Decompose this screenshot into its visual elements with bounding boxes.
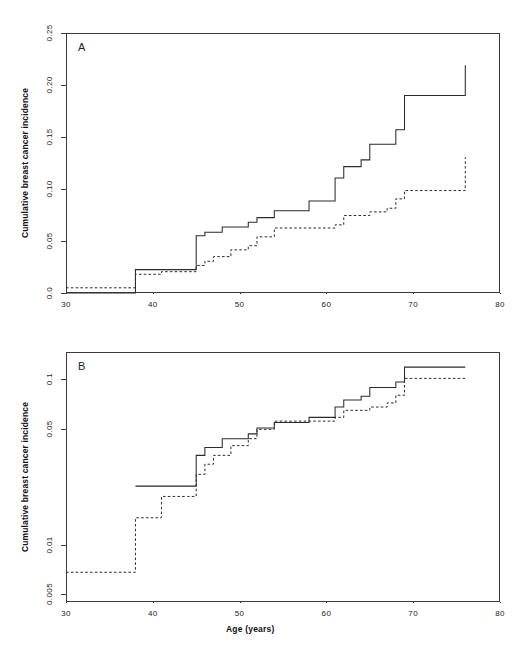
y-tick-label: 0.10	[45, 180, 54, 197]
x-tick-label: 30	[52, 300, 80, 309]
plot-area-a	[59, 33, 507, 294]
series-solid-curve-b	[135, 367, 465, 486]
panel-letter-b: B	[78, 360, 85, 372]
x-tick-label: 70	[399, 609, 427, 618]
y-tick-label: 0.005	[45, 583, 54, 605]
panel-a	[66, 33, 500, 293]
y-tick-label: 0.0	[45, 287, 54, 299]
x-tick-label: 40	[139, 300, 167, 309]
x-tick-label: 50	[226, 300, 254, 309]
plot-frame	[67, 34, 500, 293]
x-tick-label: 70	[399, 300, 427, 309]
x-tick-label: 60	[312, 609, 340, 618]
y-tick-label: 0.1	[45, 373, 54, 385]
y-axis-title-b: Cumulative breast cancer incidence	[20, 402, 30, 552]
plot-area-b	[59, 352, 507, 603]
y-tick-label: 0.01	[45, 536, 54, 553]
y-tick-label: 0.20	[45, 76, 54, 93]
x-tick-label: 80	[486, 300, 514, 309]
series-dashed-curve-b	[66, 378, 465, 572]
x-tick-label: 30	[52, 609, 80, 618]
y-tick-label: 0.15	[45, 128, 54, 145]
panel-letter-a: A	[78, 41, 85, 53]
x-tick-label: 40	[139, 609, 167, 618]
panel-b	[66, 352, 500, 602]
y-tick-label: 0.05	[45, 232, 54, 249]
y-tick-label: 0.25	[45, 24, 54, 41]
x-tick-label: 60	[312, 300, 340, 309]
x-tick-label: 80	[486, 609, 514, 618]
plot-frame	[67, 353, 500, 602]
x-tick-label: 50	[226, 609, 254, 618]
y-tick-label: 0.05	[45, 420, 54, 437]
series-dashed-curve-a	[66, 157, 465, 288]
series-solid-curve-a	[66, 65, 465, 293]
y-axis-title-a: Cumulative breast cancer incidence	[20, 88, 30, 238]
x-axis-title: Age (years)	[226, 624, 275, 634]
figure-root: Age (years) 0.00.050.100.150.200.2530405…	[0, 0, 517, 650]
